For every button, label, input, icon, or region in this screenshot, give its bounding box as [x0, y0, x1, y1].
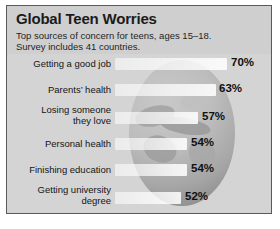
bar-category-label-line: Losing someone	[9, 104, 111, 115]
bar-category-label: Losing someone they love	[9, 104, 111, 126]
bar-value-label: 54%	[191, 136, 214, 148]
chart-subtitle-line-1: Top sources of concern for teens, ages 1…	[16, 30, 211, 41]
bar-category-label: Parents’ health	[9, 84, 111, 95]
bar-category-label: Getting a good job	[9, 58, 111, 69]
bar-category-label-line: Getting a good job	[9, 58, 111, 69]
bar-value-label: 70%	[231, 56, 254, 68]
bar-category-label-line: they love	[9, 115, 111, 126]
bar-rect	[115, 112, 198, 124]
chart-row: Losing someone they love 57%	[7, 108, 271, 134]
bar-rect	[115, 58, 227, 70]
bar-category-label-line: degree	[9, 195, 111, 206]
bar-category-label-line: Finishing education	[9, 164, 111, 175]
bar-value-label: 52%	[185, 190, 208, 202]
bar-value-label: 57%	[202, 110, 225, 122]
bar-rect	[115, 138, 187, 150]
chart-row: Getting university degree 52%	[7, 184, 271, 210]
bar-rect	[115, 164, 187, 176]
chart-row: Getting a good job 70%	[7, 56, 271, 82]
chart-title: Global Teen Worries	[16, 10, 157, 27]
chart-subtitle-line-2: Survey includes 41 countries.	[16, 41, 140, 52]
chart-row: Personal health 54%	[7, 136, 271, 162]
bar-category-label: Personal health	[9, 138, 111, 149]
bar-category-label-line: Getting university	[9, 184, 111, 195]
bar-category-label-line: Parents’ health	[9, 84, 111, 95]
bar-value-label: 63%	[219, 82, 242, 94]
bar-category-label-line: Personal health	[9, 138, 111, 149]
bar-rect	[115, 192, 181, 204]
bar-rect	[115, 84, 216, 96]
bar-value-label: 54%	[191, 162, 214, 174]
chart-header: Global Teen Worries Top sources of conce…	[7, 6, 271, 54]
chart-figure: Global Teen Worries Top sources of conce…	[0, 0, 280, 229]
chart-plot-area: Getting a good job 70% Parents’ health 6…	[7, 54, 271, 214]
chart-panel: Global Teen Worries Top sources of conce…	[6, 5, 272, 214]
bar-category-label: Finishing education	[9, 164, 111, 175]
bar-category-label: Getting university degree	[9, 184, 111, 206]
